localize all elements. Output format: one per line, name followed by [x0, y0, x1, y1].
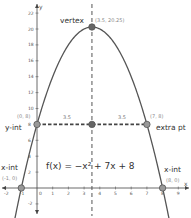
yint-label: y-int	[5, 123, 22, 132]
symmetry-point-marker	[89, 121, 95, 127]
distance-right-label: 3.5	[118, 114, 126, 120]
xint-left-coord-label: (-1, 0)	[2, 175, 17, 181]
xint-right-coord-label: (8, 0)	[166, 177, 179, 183]
svg-text:18: 18	[28, 42, 34, 47]
parabola-chart: -2-10123456789-2246810121416182022 verte…	[0, 0, 191, 218]
yint-coord-label: (0, 8)	[17, 113, 30, 119]
y-intercept-marker	[34, 121, 40, 127]
svg-text:-2: -2	[28, 201, 33, 206]
extra-label: extra pt	[156, 123, 186, 132]
extra-point-marker	[144, 121, 150, 127]
y-axis-label: y	[39, 3, 43, 11]
svg-text:2: 2	[28, 170, 31, 175]
svg-text:2: 2	[67, 191, 70, 196]
svg-text:-2: -2	[4, 191, 9, 196]
svg-text:1: 1	[51, 191, 54, 196]
extra-coord-label: (7, 8)	[150, 113, 163, 119]
x-intercept-right-marker	[159, 185, 165, 191]
x-axis-label: x	[184, 180, 188, 187]
x-intercept-left-marker	[18, 185, 24, 191]
distance-left-label: 3.5	[63, 114, 71, 120]
svg-text:6: 6	[130, 191, 133, 196]
equation-label: f(x) = −x² + 7x + 8	[46, 161, 135, 171]
svg-text:14: 14	[28, 74, 34, 79]
svg-text:10: 10	[28, 106, 34, 111]
svg-text:0: 0	[39, 191, 42, 196]
svg-text:5: 5	[114, 191, 117, 196]
svg-text:3: 3	[83, 191, 86, 196]
xint-left-label: x-int	[1, 163, 18, 172]
svg-text:4: 4	[98, 191, 101, 196]
svg-text:6: 6	[28, 138, 31, 143]
svg-text:8: 8	[28, 122, 31, 127]
svg-text:9: 9	[177, 191, 180, 196]
svg-text:7: 7	[145, 191, 148, 196]
svg-text:20: 20	[28, 27, 34, 32]
vertex-marker	[89, 24, 95, 30]
xint-right-label: x-int	[164, 165, 181, 174]
svg-text:22: 22	[28, 11, 34, 16]
vertex-label: vertex	[60, 16, 85, 25]
svg-text:12: 12	[28, 90, 34, 95]
svg-text:16: 16	[28, 58, 34, 63]
vertex-coord-label: (3.5, 20.25)	[95, 17, 124, 23]
